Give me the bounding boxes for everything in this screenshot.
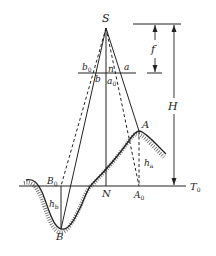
label-b0: b0 [82, 62, 92, 73]
label-a0: a0 [107, 76, 116, 87]
label-f: f [150, 43, 157, 56]
label-B: B [55, 231, 63, 242]
label-hb: hb [49, 199, 59, 210]
label-a: a [124, 62, 129, 72]
label-H: H [167, 100, 178, 113]
label-A0: A0 [133, 190, 145, 201]
label-b: b [95, 74, 101, 84]
label-ha: ha [144, 158, 154, 169]
label-n: n [108, 64, 114, 74]
label-T0: T0 [190, 181, 201, 193]
ray-S-B0 [61, 28, 106, 186]
terrain-profile [24, 131, 166, 232]
label-S: S [102, 12, 110, 25]
relief-displacement-diagram: S f H b0 b n a a0 A A0 B0 B N T0 ha hb [0, 0, 216, 256]
label-A: A [141, 119, 149, 130]
label-N: N [101, 188, 112, 199]
label-B0: B0 [46, 176, 58, 187]
